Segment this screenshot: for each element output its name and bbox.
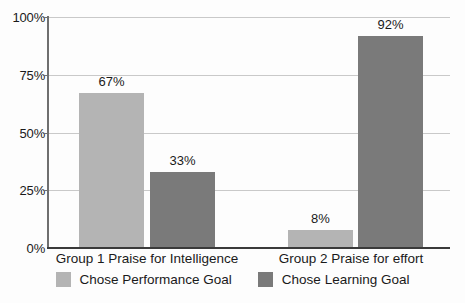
y-tick-mark-50	[43, 133, 48, 134]
y-tick-label-100: 100%	[3, 11, 45, 24]
legend-label-learning-goal: Chose Learning Goal	[282, 272, 410, 287]
legend-label-performance-goal: Chose Performance Goal	[80, 272, 232, 287]
chart-legend: Chose Performance Goal Chose Learning Go…	[0, 272, 465, 287]
x-category-label-group1: Group 1 Praise for Intelligence	[47, 251, 247, 267]
x-category-label-group2: Group 2 Praise for effort	[251, 251, 451, 267]
y-tick-label-25: 25%	[3, 184, 45, 197]
bar-group2-learning	[358, 36, 423, 249]
legend-item-learning-goal: Chose Learning Goal	[258, 272, 410, 287]
legend-item-performance-goal: Chose Performance Goal	[56, 272, 232, 287]
legend-swatch-icon-performance-goal	[56, 272, 71, 287]
bar-value-group2-performance: 8%	[288, 212, 353, 226]
bar-value-group1-performance: 67%	[79, 75, 144, 89]
y-tick-label-0: 0%	[3, 242, 45, 255]
legend-swatch-icon-learning-goal	[258, 272, 273, 287]
y-tick-mark-25	[43, 190, 48, 191]
y-axis-ticks: 100% 75% 50% 25% 0%	[0, 0, 45, 303]
bar-group1-learning	[150, 172, 215, 248]
bar-chart: 67% 33% 8% 92% 100% 75% 50% 25% 0% Group…	[0, 0, 465, 303]
bar-group1-performance	[79, 93, 144, 248]
plot-area: 67% 33% 8% 92%	[47, 17, 450, 248]
y-tick-mark-100	[43, 17, 48, 18]
y-tick-label-75: 75%	[3, 69, 45, 82]
bar-group2-performance	[288, 230, 353, 249]
x-axis-line	[47, 247, 450, 249]
bar-value-group1-learning: 33%	[150, 154, 215, 168]
bar-value-group2-learning: 92%	[358, 18, 423, 32]
y-tick-label-50: 50%	[3, 127, 45, 140]
y-tick-mark-75	[43, 75, 48, 76]
